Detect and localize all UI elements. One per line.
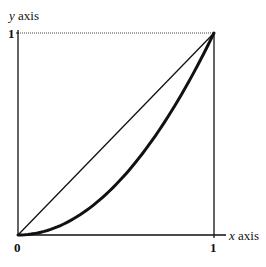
x-tick-label-1: 1 (210, 241, 217, 254)
diagonal-line (18, 33, 214, 235)
lorenz-style-chart (0, 0, 266, 267)
x-axis-word: axis (235, 228, 259, 243)
x-axis-label: x axis (229, 229, 259, 242)
y-axis-word: axis (15, 8, 39, 23)
y-axis-label: y axis (9, 9, 39, 22)
x-tick-label-0: 0 (14, 241, 21, 254)
y-tick-label-1: 1 (8, 27, 15, 40)
